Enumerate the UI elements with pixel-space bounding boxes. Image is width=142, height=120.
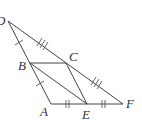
label-A: A [39, 104, 48, 119]
tick-mark-DB [15, 40, 23, 45]
geometry-diagram: D B C A E F [0, 0, 142, 120]
label-D: D [0, 13, 6, 28]
label-B: B [18, 58, 26, 73]
label-E: E [81, 107, 90, 120]
label-C: C [69, 49, 78, 64]
label-F: F [125, 96, 135, 111]
segment-BE [30, 63, 87, 104]
segment-CE [66, 63, 87, 104]
